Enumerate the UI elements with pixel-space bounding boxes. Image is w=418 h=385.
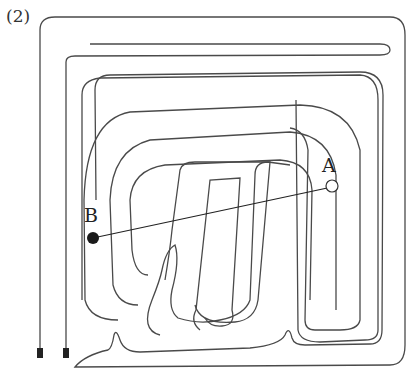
terminal-left [37,348,43,358]
maze-curve-wiggle [148,162,291,335]
terminal-right [63,348,69,358]
point-a-marker [326,180,338,192]
point-a-label: A [321,154,336,176]
segment-ab [93,187,332,238]
point-b-label: B [84,204,98,226]
maze-curve-ring-3 [110,132,336,310]
point-b-marker [87,232,99,244]
maze-curve-core [194,178,240,330]
maze-diagram: B A [0,0,418,385]
maze-curve-ring-2 [84,105,360,330]
maze-curve-inner-top-loop [66,44,390,350]
maze-curve-ring-4 [130,160,312,300]
